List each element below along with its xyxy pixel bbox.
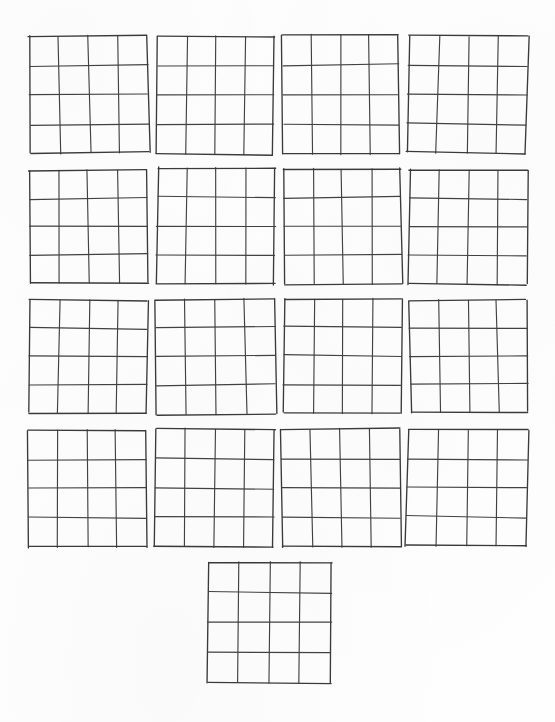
grid-cell[interactable] [311, 35, 340, 65]
grid-cell[interactable] [87, 488, 117, 517]
grid-cell[interactable] [312, 95, 341, 125]
grid-cell[interactable] [30, 198, 60, 226]
grid-cell[interactable] [185, 429, 215, 459]
grid-cell[interactable] [29, 356, 59, 384]
grid-cell[interactable] [245, 429, 275, 459]
grid-cell[interactable] [410, 328, 440, 356]
grid-cell[interactable] [467, 430, 497, 459]
grid-cell[interactable] [312, 488, 342, 518]
grid-cell[interactable] [116, 430, 146, 459]
grid-cell[interactable] [243, 518, 273, 548]
grid-cell[interactable] [301, 562, 332, 592]
grid-cell[interactable] [245, 197, 275, 226]
grid-cell[interactable] [342, 169, 372, 198]
grid-cell[interactable] [88, 328, 118, 356]
grid-cell[interactable] [342, 198, 372, 227]
grid-cell[interactable] [216, 197, 246, 226]
grid-cell[interactable] [440, 384, 470, 412]
grid-cell[interactable] [312, 517, 342, 547]
grid-cell[interactable] [370, 429, 400, 459]
grid-cell[interactable] [410, 356, 440, 384]
grid-cell[interactable] [269, 653, 300, 683]
grid-cell[interactable] [409, 198, 439, 227]
grid-cell[interactable] [156, 385, 186, 414]
grid-cell[interactable] [282, 459, 312, 489]
grid-cell[interactable] [118, 254, 148, 282]
grid-cell[interactable] [497, 95, 527, 125]
grid-cell[interactable] [29, 328, 59, 356]
grid-cell[interactable] [314, 255, 344, 284]
grid-cell[interactable] [468, 170, 498, 199]
grid-cell[interactable] [28, 384, 58, 412]
grid-cell[interactable] [117, 517, 147, 546]
grid-cell[interactable] [208, 562, 239, 592]
grid-cell[interactable] [340, 35, 369, 65]
grid-cell[interactable] [497, 327, 527, 355]
grid-cell[interactable] [406, 516, 436, 545]
grid-cell[interactable] [58, 36, 88, 66]
grid-4-1[interactable] [27, 430, 147, 548]
grid-cell[interactable] [498, 36, 528, 66]
grid-cell[interactable] [438, 65, 468, 95]
grid-cell[interactable] [208, 622, 239, 652]
grid-cell[interactable] [466, 517, 496, 546]
grid-cell[interactable] [245, 356, 275, 385]
grid-cell[interactable] [497, 488, 527, 517]
grid-cell[interactable] [156, 255, 186, 284]
grid-cell[interactable] [215, 299, 245, 328]
grid-cell[interactable] [216, 385, 246, 414]
grid-cell[interactable] [238, 653, 269, 683]
grid-cell[interactable] [438, 255, 468, 284]
grid-cell[interactable] [244, 95, 274, 125]
grid-cell[interactable] [88, 170, 118, 198]
grid-cell[interactable] [372, 299, 402, 328]
grid-cell[interactable] [497, 256, 527, 285]
grid-cell[interactable] [372, 328, 402, 357]
grid-cell[interactable] [340, 429, 370, 459]
grid-cell[interactable] [59, 328, 89, 356]
grid-cell[interactable] [31, 124, 61, 154]
grid-cell[interactable] [87, 459, 117, 488]
grid-1-4[interactable] [407, 35, 528, 153]
grid-2-2[interactable] [156, 168, 275, 285]
grid-cell[interactable] [214, 488, 244, 518]
grid-cell[interactable] [313, 169, 343, 198]
grid-cell[interactable] [245, 36, 275, 66]
grid-cell[interactable] [60, 255, 90, 283]
grid-cell[interactable] [282, 35, 311, 65]
grid-cell[interactable] [216, 226, 246, 255]
grid-3-2[interactable] [155, 299, 276, 415]
grid-cell[interactable] [370, 488, 400, 518]
grid-2-3[interactable] [283, 169, 401, 285]
grid-cell[interactable] [313, 384, 343, 413]
grid-cell[interactable] [238, 622, 269, 652]
grid-cell[interactable] [58, 356, 88, 384]
grid-cell[interactable] [270, 562, 301, 592]
grid-cell[interactable] [283, 169, 313, 198]
grid-cell[interactable] [341, 94, 370, 124]
grid-cell[interactable] [407, 94, 437, 124]
grid-3-1[interactable] [28, 300, 148, 414]
grid-cell[interactable] [58, 170, 88, 198]
grid-4-2[interactable] [154, 429, 275, 548]
grid-cell[interactable] [496, 124, 526, 154]
grid-cell[interactable] [155, 429, 185, 459]
grid-cell[interactable] [155, 299, 185, 328]
grid-cell[interactable] [283, 95, 312, 125]
grid-cell[interactable] [468, 300, 498, 328]
grid-cell[interactable] [214, 517, 244, 547]
grid-cell[interactable] [342, 356, 372, 385]
grid-cell[interactable] [343, 299, 373, 328]
grid-cell[interactable] [284, 356, 314, 385]
grid-1-1[interactable] [29, 35, 149, 153]
grid-cell[interactable] [28, 518, 58, 547]
grid-cell[interactable] [438, 36, 468, 66]
grid-cell[interactable] [439, 328, 469, 356]
grid-cell[interactable] [313, 198, 343, 227]
grid-cell[interactable] [436, 517, 466, 546]
grid-cell[interactable] [118, 65, 148, 95]
grid-cell[interactable] [270, 592, 301, 622]
grid-cell[interactable] [186, 226, 216, 255]
grid-cell[interactable] [246, 168, 276, 197]
grid-cell[interactable] [155, 488, 185, 518]
